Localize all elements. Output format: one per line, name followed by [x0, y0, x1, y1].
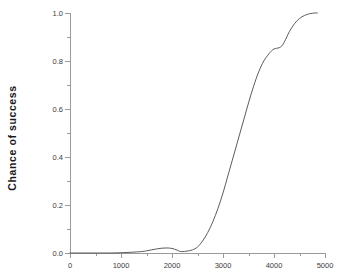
x-tick-label: 4000: [266, 261, 283, 270]
y-tick-label: 1.0: [53, 9, 63, 18]
x-tick-label: 5000: [317, 261, 334, 270]
y-tick-label: 0.4: [53, 153, 63, 162]
y-tick-label: 0.2: [53, 201, 63, 210]
x-tick-label: 0: [68, 261, 72, 270]
chart-figure: Chance of success 0.00.20.40.60.81.0 010…: [0, 0, 339, 276]
x-tick-label: 2000: [164, 261, 181, 270]
x-tick-label: 1000: [113, 261, 130, 270]
x-tick-major: [325, 253, 326, 258]
y-axis-title: Chance of success: [0, 0, 24, 276]
x-tick-label: 3000: [215, 261, 232, 270]
y-tick-label: 0.0: [53, 249, 63, 258]
y-tick-label: 0.6: [53, 105, 63, 114]
y-tick-label: 0.8: [53, 57, 63, 66]
data-line-chance-of-success: [70, 13, 325, 254]
plot-area: 0.00.20.40.60.81.0 010002000300040005000: [70, 13, 325, 253]
y-axis-title-label: Chance of success: [6, 85, 18, 190]
